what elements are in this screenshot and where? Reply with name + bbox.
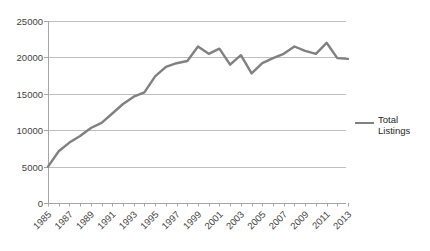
x-axis-tick-label: 1995 (138, 209, 161, 232)
y-axis-tick-label: 15000 (17, 89, 43, 100)
x-axis-tick-label: 1989 (74, 209, 97, 232)
total-listings-series-line (48, 43, 348, 167)
x-axis-tick-label: 2011 (310, 209, 332, 231)
chart-legend: Total Listings (355, 114, 416, 136)
x-axis-tick-label: 1997 (159, 209, 182, 232)
x-axis-tick-label: 2001 (202, 209, 225, 232)
x-axis-tick-label: 2005 (245, 209, 268, 232)
legend-line-swatch (355, 122, 374, 124)
y-axis-tick-label: 20000 (17, 52, 43, 63)
x-axis-tick-label: 1993 (116, 209, 139, 232)
chart-container: 0500010000150002000025000198519871989199… (0, 0, 430, 251)
x-axis-tick-label: 2007 (266, 209, 289, 232)
x-axis-tick-label: 1999 (181, 209, 204, 232)
y-axis-tick-label: 25000 (17, 16, 43, 27)
y-axis-tick-label: 5000 (22, 162, 43, 173)
x-axis-tick-label: 1991 (95, 209, 118, 232)
x-axis-tick-label: 1985 (31, 209, 54, 232)
x-axis-tick-label: 2013 (331, 209, 354, 232)
x-axis-tick-label: 1987 (52, 209, 75, 232)
y-axis-tick-label: 10000 (17, 125, 43, 136)
x-axis-tick-label: 2009 (288, 209, 311, 232)
x-axis-tick-label: 2003 (224, 209, 247, 232)
legend-series-label: Total Listings (378, 114, 416, 136)
y-axis-tick-label: 0 (38, 198, 43, 209)
